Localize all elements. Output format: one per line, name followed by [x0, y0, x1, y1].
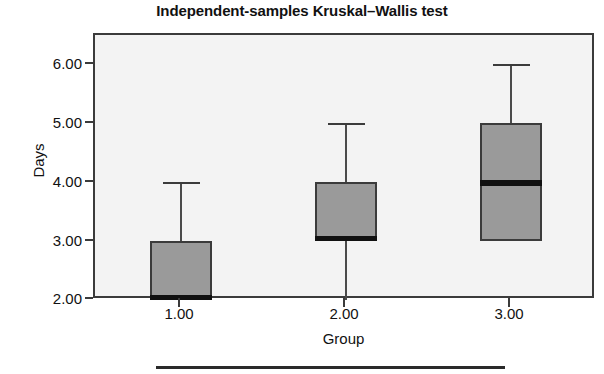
box-3-median-line	[480, 180, 542, 186]
box-2-rect	[315, 182, 377, 241]
y-tick-label-3: 3.00	[12, 233, 82, 248]
y-tick-label-5: 5.00	[12, 115, 82, 130]
box-3-upper-whisker-cap	[493, 64, 530, 66]
y-tick-label-6: 6.00	[12, 56, 82, 71]
box-1-upper-whisker-cap	[163, 182, 200, 184]
y-axis-tick-labels: 6.00 5.00 4.00 3.00 2.00	[10, 0, 82, 374]
box-1-rect	[150, 241, 212, 300]
box-2-upper-whisker-cap	[328, 123, 365, 125]
plot-inner	[95, 35, 592, 296]
y-tick-mark-4	[85, 180, 93, 182]
y-tick-label-4: 4.00	[12, 174, 82, 189]
y-tick-mark-3	[85, 239, 93, 241]
box-1-upper-whisker-stem	[180, 182, 182, 241]
box-2-lower-whisker-stem	[345, 241, 347, 300]
box-2-upper-whisker-stem	[345, 123, 347, 182]
box-3-upper-whisker-stem	[510, 64, 512, 123]
y-tick-mark-5	[85, 121, 93, 123]
plot-area	[93, 33, 594, 298]
x-axis-title: Group	[93, 330, 594, 347]
boxplot-figure: Independent-samples Kruskal–Wallis test …	[0, 0, 604, 374]
y-tick-label-2: 2.00	[12, 291, 82, 306]
x-tick-label-1: 1.00	[139, 306, 219, 321]
box-1-median-line	[150, 295, 212, 300]
bottom-divider-rule	[156, 366, 505, 369]
chart-title: Independent-samples Kruskal–Wallis test	[0, 2, 604, 19]
x-tick-label-3: 3.00	[469, 306, 549, 321]
x-tick-label-2: 2.00	[304, 306, 384, 321]
y-tick-mark-6	[85, 62, 93, 64]
box-2-median-line	[315, 236, 377, 241]
y-tick-mark-2	[85, 297, 93, 299]
